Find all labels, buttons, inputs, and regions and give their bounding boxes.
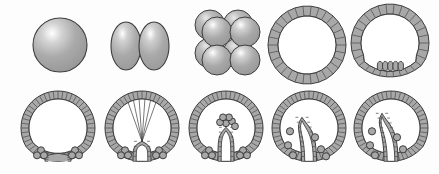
blastocoel bbox=[29, 99, 87, 153]
mesenchyme-cell bbox=[244, 152, 251, 159]
mesenchyme-cell bbox=[289, 152, 296, 159]
mesenchyme-cell bbox=[125, 152, 132, 159]
mesenchyme-blastula-svg bbox=[346, 2, 434, 90]
filopodia-extension-svg bbox=[99, 88, 185, 174]
mesenchyme-cell bbox=[371, 152, 378, 159]
mesenchyme-cell bbox=[160, 152, 167, 159]
archenteron-bending-svg bbox=[266, 88, 352, 174]
blastomere-right bbox=[139, 22, 169, 70]
mouth-formation-svg bbox=[348, 88, 436, 174]
late-gastrula-body bbox=[354, 91, 428, 161]
mesenchyme-cell bbox=[118, 152, 125, 159]
stage-mouth-formation bbox=[348, 88, 436, 174]
mesenchyme-cell bbox=[220, 114, 227, 121]
zygote-cell bbox=[33, 18, 87, 72]
mesenchyme-cell bbox=[399, 146, 406, 153]
mesenchyme-cell bbox=[317, 146, 324, 153]
archenteron-lumen bbox=[136, 145, 148, 162]
mesenchyme-cell bbox=[69, 152, 76, 159]
zygote-svg bbox=[20, 8, 102, 88]
epithelial-ring bbox=[268, 6, 346, 84]
gastrula-body bbox=[105, 91, 179, 161]
ingressing-cell bbox=[398, 61, 403, 70]
development-sequence-figure bbox=[0, 0, 439, 174]
stage-blastula bbox=[263, 2, 351, 90]
stage-archenteron-elongation bbox=[183, 88, 269, 174]
stage-eight-cell bbox=[186, 8, 270, 88]
ingressing-cell bbox=[393, 61, 398, 70]
gastrula-body bbox=[189, 91, 263, 161]
ingressing-cell bbox=[383, 61, 388, 70]
mesenchyme-cell bbox=[202, 152, 209, 159]
blastocoel bbox=[278, 16, 336, 74]
stage-zygote bbox=[20, 8, 102, 88]
mesenchyme-cell bbox=[393, 134, 400, 141]
mesenchyme-cell bbox=[368, 128, 375, 135]
blastula-svg bbox=[263, 2, 351, 90]
mesenchyme-cell bbox=[284, 142, 291, 149]
blastomere-left bbox=[111, 22, 141, 70]
mesenchyme-cell bbox=[232, 123, 239, 130]
eight-cell-svg bbox=[186, 8, 270, 88]
stage-archenteron-bending bbox=[266, 88, 352, 174]
mesenchyme-cell bbox=[153, 152, 160, 159]
stage-two-cell bbox=[104, 8, 180, 88]
mesenchyme-cell bbox=[286, 128, 293, 135]
mesenchyme-cell bbox=[237, 152, 244, 159]
mesenchyme-cell bbox=[322, 153, 329, 160]
early-invagination-svg bbox=[15, 88, 101, 174]
late-gastrula-body bbox=[272, 91, 346, 161]
mesenchyme-cell bbox=[34, 152, 41, 159]
mesenchyme-cell bbox=[366, 142, 373, 149]
two-cell-svg bbox=[104, 8, 180, 88]
mesenchyme-cell bbox=[41, 152, 48, 159]
ingressing-cell bbox=[388, 61, 393, 70]
ingressing-mesenchyme-cells bbox=[377, 61, 403, 70]
stage-filopodia-extension bbox=[99, 88, 185, 174]
mesenchyme-cell bbox=[209, 152, 216, 159]
stage-mesenchyme-blastula bbox=[346, 2, 434, 90]
ingressing-cell bbox=[377, 61, 382, 70]
archenteron-elongation-svg bbox=[183, 88, 269, 174]
stage-early-invagination bbox=[15, 88, 101, 174]
mesenchyme-cell bbox=[311, 134, 318, 141]
mesenchyme-cell bbox=[76, 152, 83, 159]
gastrula-body bbox=[21, 91, 95, 161]
